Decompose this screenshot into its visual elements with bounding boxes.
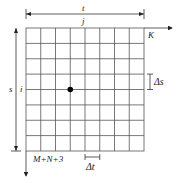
j-index-label: j xyxy=(81,16,85,26)
delta-t-label: Δt xyxy=(85,161,95,172)
fd-grid-diagram: t j K s i Δs xyxy=(0,0,180,183)
delta-s-label: Δs xyxy=(153,76,164,87)
marked-node xyxy=(67,87,73,93)
grid xyxy=(26,28,144,151)
delta-s-bracket xyxy=(147,74,153,89)
t-axis-label: t xyxy=(82,3,85,13)
i-index-label: i xyxy=(20,84,23,94)
bottom-index-label: M+N+3 xyxy=(32,154,64,164)
s-axis-label: s xyxy=(9,84,13,94)
t-dimension-line xyxy=(26,9,144,19)
k-label: K xyxy=(147,30,155,40)
delta-t-bracket xyxy=(85,154,100,160)
